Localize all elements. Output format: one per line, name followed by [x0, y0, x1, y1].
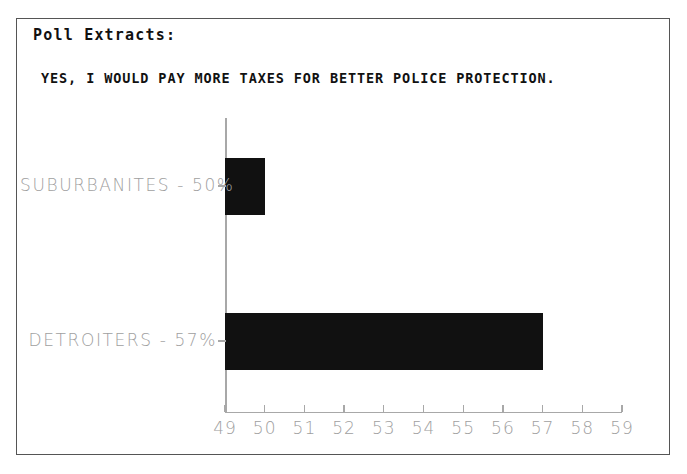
- x-tick: [423, 405, 424, 412]
- y-tick: [218, 340, 226, 341]
- x-tick: [542, 405, 543, 412]
- x-axis-line: [225, 412, 556, 414]
- x-tick-label: 54: [404, 418, 444, 438]
- x-tick-label: 58: [562, 418, 602, 438]
- x-tick: [502, 405, 503, 412]
- plot-area: 4950515253545556575859 SUBURBANITES - 50…: [0, 0, 687, 474]
- category-label: DETROITERS - 57%: [20, 330, 217, 350]
- x-tick-label: 57: [523, 418, 563, 438]
- x-tick: [304, 405, 305, 412]
- x-tick: [463, 405, 464, 412]
- x-tick: [343, 405, 344, 412]
- x-tick: [224, 405, 225, 412]
- x-axis-line-extension: [556, 412, 622, 414]
- x-tick-label: 52: [324, 418, 364, 438]
- x-tick: [582, 405, 583, 412]
- x-tick-label: 55: [443, 418, 483, 438]
- category-label: SUBURBANITES - 50%: [20, 175, 217, 195]
- x-tick-label: 51: [284, 418, 324, 438]
- x-tick: [621, 405, 622, 412]
- x-tick: [383, 405, 384, 412]
- chart-page: Poll Extracts: YES, I WOULD PAY MORE TAX…: [0, 0, 687, 474]
- x-tick-label: 56: [483, 418, 523, 438]
- x-tick-label: 49: [205, 418, 245, 438]
- x-tick-label: 50: [245, 418, 285, 438]
- x-tick-label: 53: [364, 418, 404, 438]
- x-tick-label: 59: [602, 418, 642, 438]
- bar: [225, 313, 543, 370]
- x-tick: [264, 405, 265, 412]
